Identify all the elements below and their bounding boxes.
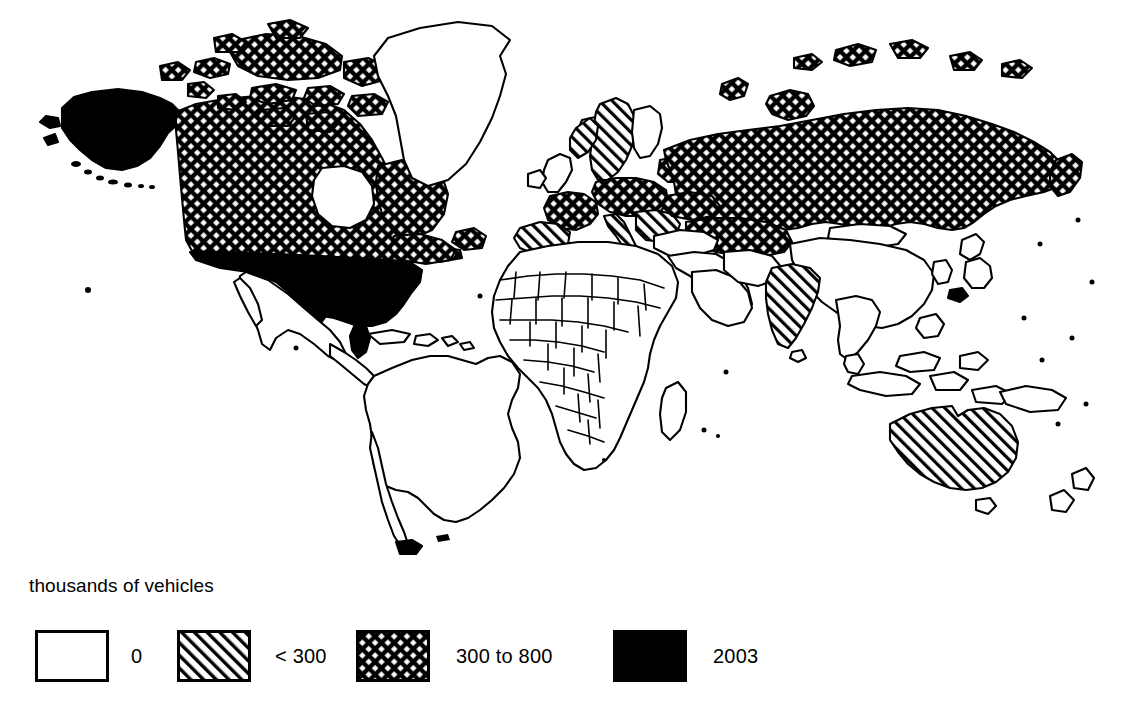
legend-entry-300-to-800[interactable]: 300 to 800 [356,625,553,687]
region-tasmania [976,498,996,514]
region-philippines [916,314,944,338]
region-japan-kyushu [948,288,968,302]
region-india [766,264,820,348]
legend-swatch-diagonal-hatch [177,630,251,682]
region-madagascar [660,382,686,440]
legend-entry-2003[interactable]: 2003 [613,625,758,687]
region-korea [932,260,952,284]
world-map [0,0,1134,565]
region-new-guinea [1000,386,1066,412]
region-russia [664,108,1068,230]
region-kamchatka [1050,154,1082,196]
region-australia [890,406,1018,490]
region-new-zealand-south [1050,490,1074,512]
region-caribbean [368,330,474,350]
legend-label-under-300: < 300 [275,645,327,667]
world-map-svg [0,0,1134,565]
swatch-cross-hatch-svg [356,630,430,682]
region-tierra-del-fuego [396,540,422,554]
region-newfoundland [452,228,486,250]
legend-swatch-white-blank [35,630,109,682]
region-sri-lanka [790,350,806,362]
region-united-kingdom [542,154,572,192]
region-indonesia [848,352,1012,404]
legend-entry-under-300[interactable]: < 300 [177,625,327,687]
legend-label-300-to-800: 300 to 800 [456,645,553,667]
region-malay-peninsula [844,354,864,374]
region-novaya-zemlya [720,78,748,100]
swatch-white-blank-svg [35,630,109,682]
region-quebec-maritimes [390,234,456,264]
region-florida [350,322,370,358]
legend-label-zero: 0 [131,645,142,667]
region-southeast-asia [836,296,880,360]
map-legend: thousands of vehicles 0 [0,565,1134,722]
legend-entry-zero[interactable]: 0 [35,625,142,687]
legend-title: thousands of vehicles [29,575,214,597]
region-finland [632,106,662,158]
figure-root: thousands of vehicles 0 [0,0,1134,722]
region-ukraine [662,192,720,220]
region-siberia-north [766,90,814,120]
region-turkey [654,230,718,256]
region-new-zealand-north [1072,468,1094,490]
region-japan [960,234,984,260]
swatch-solid-black-svg [613,630,687,682]
region-japan-honshu [964,258,992,288]
region-alaska [40,89,180,170]
swatch-diagonal-hatch-svg [177,630,251,682]
legend-swatch-cross-hatch [356,630,430,682]
region-falkland-islands [436,534,450,542]
legend-swatch-solid-black [613,630,687,682]
legend-label-2003: 2003 [713,645,758,667]
legend-entries-row: 0 < 300 [0,625,1134,695]
region-arctic-islands-russia [794,40,1032,78]
